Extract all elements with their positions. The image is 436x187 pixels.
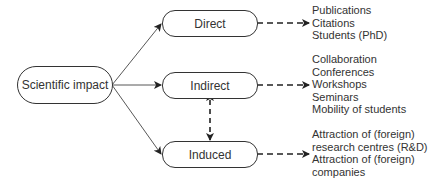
list-item: Publications — [312, 4, 387, 17]
list-item: Collaboration — [312, 53, 406, 66]
list-item: Conferences — [312, 66, 406, 79]
list-item: research centres (R&D) — [312, 141, 428, 154]
list-item: Attraction of (foreign) — [312, 153, 428, 166]
category-node-induced: Induced — [162, 141, 258, 168]
category-label-indirect: Indirect — [190, 79, 229, 93]
list-item: Students (PhD) — [312, 29, 387, 42]
list-item: Seminars — [312, 91, 406, 104]
root-node-scientific-impact: Scientific impact — [17, 66, 113, 104]
list-item: companies — [312, 166, 428, 179]
induced-items-list: Attraction of (foreign) research centres… — [312, 128, 428, 178]
arrow-root-to-direct — [112, 24, 161, 85]
list-item: Workshops — [312, 78, 406, 91]
list-item: Mobility of students — [312, 103, 406, 116]
root-node-label: Scientific impact — [22, 78, 109, 92]
list-item: Citations — [312, 17, 387, 30]
category-label-induced: Induced — [189, 148, 232, 162]
arrow-root-to-induced — [112, 85, 161, 154]
indirect-items-list: Collaboration Conferences Workshops Semi… — [312, 53, 406, 116]
category-node-direct: Direct — [162, 10, 258, 37]
category-node-indirect: Indirect — [162, 72, 258, 99]
list-item: Attraction of (foreign) — [312, 128, 428, 141]
direct-items-list: Publications Citations Students (PhD) — [312, 4, 387, 42]
category-label-direct: Direct — [194, 17, 225, 31]
